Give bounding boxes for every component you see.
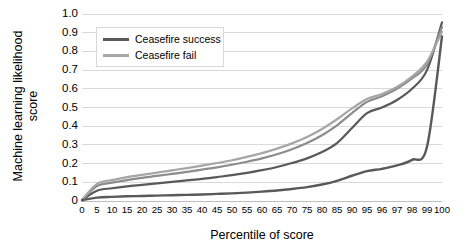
x-axis-tick-label: 85 (332, 205, 343, 215)
chart-legend: Ceasefire success Ceasefire fail (96, 27, 224, 67)
legend-swatch-icon (103, 38, 129, 41)
x-axis-tick-label: 30 (167, 205, 178, 215)
x-axis-tick-label: 15 (122, 205, 133, 215)
x-axis-tick-label: 95 (362, 205, 373, 215)
legend-label: Ceasefire success (135, 33, 221, 45)
x-axis-tick-label: 96 (377, 205, 388, 215)
x-axis-tick-label: 55 (242, 205, 253, 215)
x-axis-tick-label: 65 (272, 205, 283, 215)
x-axis-tick-label: 75 (302, 205, 313, 215)
x-axis-tick-label: 100 (434, 205, 450, 215)
x-axis-label: Percentile of score (82, 228, 442, 242)
x-axis-tick-label: 25 (152, 205, 163, 215)
legend-label: Ceasefire fail (135, 49, 196, 61)
x-axis-tick-label: 99 (422, 205, 433, 215)
legend-swatch-icon (103, 54, 129, 57)
x-axis-tick-label: 90 (347, 205, 358, 215)
x-axis-tick-label: 98 (407, 205, 418, 215)
x-axis-tick-label: 20 (137, 205, 148, 215)
x-axis-tick-label: 5 (94, 205, 99, 215)
plot-area (0, 0, 475, 250)
x-axis-tick-label: 50 (227, 205, 238, 215)
x-axis-tick-label: 70 (287, 205, 298, 215)
chart-figure: Machine learning likelihood score 1.00.9… (0, 0, 475, 250)
x-axis-tick-label: 40 (197, 205, 208, 215)
x-axis-tick-label: 97 (392, 205, 403, 215)
x-axis-tick-label: 10 (107, 205, 118, 215)
legend-item-ceasefire-fail: Ceasefire fail (103, 49, 196, 61)
legend-item-ceasefire-success: Ceasefire success (103, 33, 221, 45)
x-axis-tick-label: 0 (79, 205, 84, 215)
x-axis-tick-label: 35 (182, 205, 193, 215)
x-axis-tick-label: 60 (257, 205, 268, 215)
x-axis-tick-label: 45 (212, 205, 223, 215)
x-axis-tick-label: 80 (317, 205, 328, 215)
